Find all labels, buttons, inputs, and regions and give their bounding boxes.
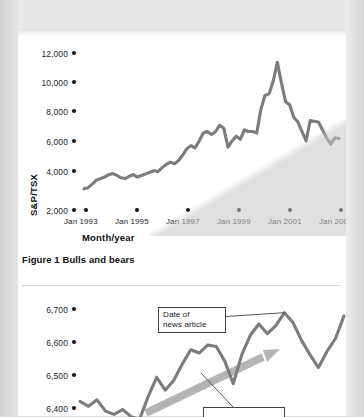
figure-1-plot-line bbox=[18, 36, 346, 236]
figure-1-caption: Figure 1 Bulls and bears bbox=[22, 254, 135, 265]
top-margin-band bbox=[0, 0, 364, 29]
figure-2: 6,700 6,600 6,500 6,400 Date of news art… bbox=[18, 295, 346, 416]
section-divider bbox=[22, 285, 340, 286]
callout-date-of-news-article: Date of news article bbox=[158, 307, 226, 333]
right-gutter bbox=[346, 0, 364, 416]
figure-1: 12,000 10,000 8,000 6,000 4,000 2,000 S&… bbox=[18, 36, 346, 280]
callout-partial-cropped bbox=[203, 407, 285, 417]
left-gutter bbox=[0, 0, 18, 416]
